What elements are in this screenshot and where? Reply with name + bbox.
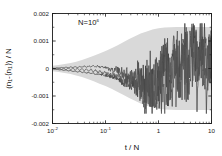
y-tick-label: 0.001 — [34, 37, 50, 44]
x-tick-label: 10 — [208, 127, 215, 134]
y-tick-label: -0.001 — [31, 92, 49, 99]
y-tick-label: 0 — [46, 65, 50, 72]
y-tick-label: -0.002 — [31, 120, 49, 127]
n-value-annotation: N=106 — [78, 18, 99, 27]
x-axis-title: t / N — [125, 143, 140, 152]
x-tick-label: 1 — [157, 127, 161, 134]
y-axis-title: (n₁-⟨n₁⟩) / N — [4, 48, 13, 89]
y-tick-label: 0.002 — [34, 10, 50, 17]
chart-canvas: 0.0020.0010-0.001-0.002 10-210-1110 t / … — [0, 0, 222, 156]
figure-container: 0.0020.0010-0.001-0.002 10-210-1110 t / … — [0, 0, 222, 156]
